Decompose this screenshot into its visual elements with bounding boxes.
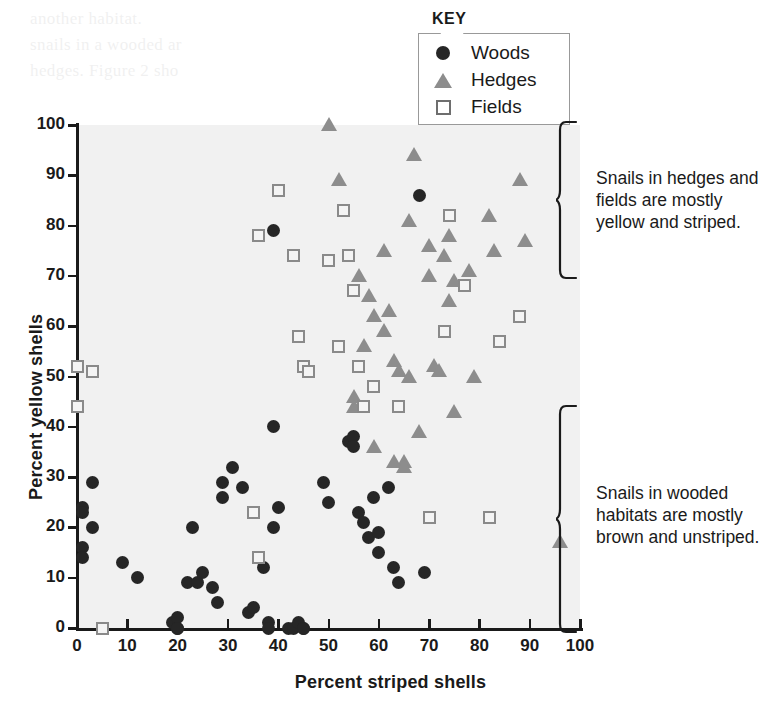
bleed-text-block: snails in a wooded ar: [30, 32, 182, 57]
data-point-fields: [71, 360, 84, 373]
data-point-woods: [86, 476, 99, 489]
data-point-fields: [332, 340, 345, 353]
data-point-woods: [76, 506, 89, 519]
data-point-fields: [252, 551, 265, 564]
x-tick: [529, 619, 532, 628]
annotation-upper: Snails in hedges and fields are mostly y…: [596, 167, 776, 233]
data-point-fields: [458, 279, 471, 292]
legend-item-woods: Woods: [429, 40, 530, 66]
data-point-fields: [322, 254, 335, 267]
data-point-fields: [337, 204, 350, 217]
x-tick: [328, 619, 331, 628]
x-tick: [428, 619, 431, 628]
x-tick-label: 50: [304, 636, 354, 656]
legend-item-hedges: Hedges: [429, 67, 537, 93]
data-point-woods: [247, 601, 260, 614]
lower-bracket: [556, 404, 586, 634]
x-tick: [478, 619, 481, 628]
square-icon: [429, 100, 457, 115]
legend-label-woods: Woods: [457, 42, 530, 64]
x-tick-label: 40: [253, 636, 303, 656]
data-point-fields: [438, 325, 451, 338]
data-point-woods: [267, 224, 280, 237]
data-point-fields: [357, 400, 370, 413]
y-tick: [68, 174, 77, 177]
data-point-fields: [483, 511, 496, 524]
data-point-woods: [357, 516, 370, 529]
x-tick: [277, 619, 280, 628]
x-tick: [126, 619, 129, 628]
legend-box: Woods Hedges Fields: [418, 33, 570, 125]
x-tick-label: 30: [203, 636, 253, 656]
data-point-hedges: [441, 293, 457, 307]
data-point-woods: [76, 551, 89, 564]
data-point-woods: [131, 571, 144, 584]
data-point-woods: [367, 491, 380, 504]
y-tick: [68, 426, 77, 429]
x-tick-label: 60: [354, 636, 404, 656]
y-tick-label: 70: [15, 265, 65, 285]
legend-item-fields: Fields: [429, 94, 522, 120]
data-point-hedges: [376, 243, 392, 257]
data-point-woods: [322, 496, 335, 509]
data-point-woods: [297, 622, 310, 635]
data-point-hedges: [381, 303, 397, 317]
data-point-fields: [96, 622, 109, 635]
data-point-fields: [71, 400, 84, 413]
plot-area: [77, 125, 580, 628]
data-point-hedges: [351, 268, 367, 282]
legend-title: KEY: [432, 10, 466, 28]
data-point-woods: [171, 622, 184, 635]
data-point-hedges: [481, 208, 497, 222]
data-point-fields: [302, 365, 315, 378]
data-point-woods: [413, 189, 426, 202]
y-tick: [68, 577, 77, 580]
x-axis-line: [76, 628, 583, 631]
x-tick: [378, 619, 381, 628]
y-tick-label: 0: [15, 617, 65, 637]
data-point-woods: [262, 622, 275, 635]
data-point-hedges: [421, 238, 437, 252]
data-point-fields: [392, 400, 405, 413]
data-point-woods: [418, 566, 431, 579]
data-point-hedges: [366, 308, 382, 322]
data-point-woods: [267, 521, 280, 534]
data-point-hedges: [331, 172, 347, 186]
data-point-woods: [382, 481, 395, 494]
data-point-hedges: [461, 263, 477, 277]
data-point-hedges: [441, 228, 457, 242]
triangle-icon: [429, 73, 457, 88]
y-tick: [68, 225, 77, 228]
x-tick-label: 90: [505, 636, 555, 656]
x-tick: [227, 619, 230, 628]
y-tick: [68, 275, 77, 278]
data-point-hedges: [401, 213, 417, 227]
data-point-hedges: [466, 369, 482, 383]
data-point-woods: [116, 556, 129, 569]
data-point-fields: [247, 506, 260, 519]
data-point-hedges: [356, 338, 372, 352]
y-tick: [68, 325, 77, 328]
data-point-woods: [226, 461, 239, 474]
data-point-woods: [186, 521, 199, 534]
data-point-woods: [317, 476, 330, 489]
annotation-lower: Snails in wooded habitats are mostly bro…: [596, 482, 781, 548]
y-tick: [68, 376, 77, 379]
data-point-hedges: [406, 147, 422, 161]
data-point-fields: [287, 249, 300, 262]
data-point-fields: [513, 310, 526, 323]
data-point-hedges: [446, 404, 462, 418]
data-point-fields: [292, 330, 305, 343]
data-point-hedges: [436, 248, 452, 262]
data-point-fields: [252, 229, 265, 242]
data-point-hedges: [321, 117, 337, 131]
data-point-fields: [347, 284, 360, 297]
x-tick-label: 10: [102, 636, 152, 656]
data-point-hedges: [431, 363, 447, 377]
legend-label-hedges: Hedges: [457, 69, 537, 91]
y-tick: [68, 124, 77, 127]
data-point-hedges: [421, 268, 437, 282]
data-point-hedges: [411, 424, 427, 438]
data-point-hedges: [361, 288, 377, 302]
data-point-fields: [272, 184, 285, 197]
